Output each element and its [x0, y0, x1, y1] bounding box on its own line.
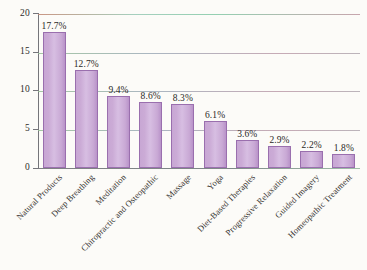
- plot-area: 17.7%12.7%9.4%8.6%8.3%6.1%3.6%2.9%2.2%1.…: [38, 14, 360, 168]
- bar-value-label-4: 8.3%: [165, 93, 200, 103]
- bar-chart: 20 15 10 5 0 17.7%12.7%9.4%8.6%8.3%6.1%3…: [0, 0, 367, 270]
- bar-0: [43, 32, 66, 168]
- y-tick-label-15: 15: [0, 46, 30, 56]
- bar-5: [204, 121, 227, 168]
- bar-2: [107, 96, 130, 168]
- category-label-9: Homeopathic Treatment: [286, 172, 354, 240]
- bar-6: [236, 140, 259, 168]
- gridline-20: [38, 14, 360, 15]
- bar-4: [171, 104, 194, 168]
- bar-3: [139, 102, 162, 168]
- bar-value-label-1: 12.7%: [69, 59, 104, 69]
- bar-value-label-7: 2.9%: [262, 135, 297, 145]
- bar-value-label-9: 1.8%: [326, 143, 361, 153]
- bar-8: [300, 151, 323, 168]
- bar-value-label-2: 9.4%: [101, 85, 136, 95]
- bar-value-label-5: 6.1%: [198, 110, 233, 120]
- bar-1: [75, 70, 98, 168]
- bar-9: [332, 154, 355, 168]
- bar-value-label-6: 3.6%: [230, 129, 265, 139]
- category-label-4: Massage: [164, 172, 193, 201]
- gridline-15: [38, 53, 360, 54]
- y-tick-label-5: 5: [0, 123, 30, 133]
- category-label-5: Yoga: [205, 172, 225, 192]
- y-tick-label-20: 20: [0, 8, 30, 18]
- gridline-0-baseline: [38, 168, 360, 169]
- bar-7: [268, 146, 291, 168]
- bar-value-label-3: 8.6%: [133, 91, 168, 101]
- y-tick-label-0: 0: [0, 162, 30, 172]
- bar-value-label-8: 2.2%: [294, 140, 329, 150]
- bar-value-label-0: 17.7%: [37, 21, 72, 31]
- y-tick-label-10: 10: [0, 84, 30, 94]
- category-label-6: Diet-Based Therapies: [195, 172, 257, 234]
